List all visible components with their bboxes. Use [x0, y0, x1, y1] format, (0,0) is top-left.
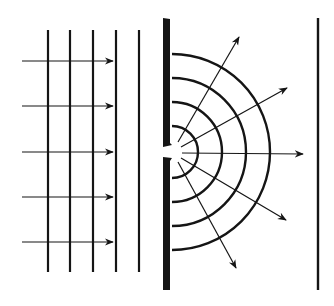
- diffracted-ray-arrow: [181, 88, 287, 147]
- barrier-lower-segment: [163, 157, 172, 290]
- diffracted-ray-arrow: [178, 162, 236, 268]
- barrier-upper-segment: [163, 18, 172, 147]
- diffracted-rays: [178, 37, 303, 268]
- circular-wavefront-arc: [172, 78, 246, 226]
- diffracted-ray-arrow: [181, 158, 286, 220]
- slit-barrier: [163, 18, 172, 290]
- diffracted-ray-arrow: [178, 37, 239, 142]
- diffracted-ray-arrow: [182, 153, 303, 154]
- incident-wavefronts: [48, 30, 139, 272]
- incident-rays: [22, 61, 113, 242]
- diffraction-diagram: [0, 0, 334, 306]
- circular-wavefront-arc: [172, 126, 198, 178]
- diagram-canvas: [0, 0, 334, 306]
- diffracted-wavefronts: [172, 54, 270, 250]
